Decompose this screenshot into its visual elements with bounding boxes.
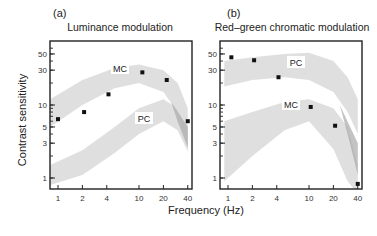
band-label-mc: MC — [284, 100, 298, 110]
bands-a — [50, 64, 188, 185]
data-point — [165, 78, 169, 82]
x-tick-label: 2 — [80, 194, 85, 203]
panel-chromatic: (b) Red–green chromatic modulation 13510… — [208, 7, 369, 203]
y-tick-label: 30 — [208, 66, 217, 75]
data-point — [276, 75, 280, 79]
panel-title-a: Luminance modulation — [67, 21, 173, 33]
panel-luminance: (a) Luminance modulation 135103050124102… — [38, 7, 193, 203]
x-tick-label: 2 — [250, 194, 255, 203]
data-point — [106, 92, 110, 96]
band-label-pc: PC — [290, 58, 303, 68]
y-tick-label: 1 — [43, 174, 48, 183]
x-axis-title: Frequency (Hz) — [168, 204, 244, 216]
band-mc — [224, 99, 357, 194]
data-point — [229, 55, 233, 59]
bands-b — [224, 53, 357, 195]
y-tick-label: 3 — [213, 139, 218, 148]
y-tick-label: 3 — [43, 139, 48, 148]
y-tick-label: 50 — [38, 50, 47, 59]
x-tick-label: 1 — [56, 194, 61, 203]
x-tick-label: 4 — [105, 194, 110, 203]
y-tick-label: 10 — [38, 101, 47, 110]
data-point — [186, 119, 190, 123]
y-tick-label: 5 — [213, 123, 218, 132]
band-label-mc: MC — [113, 64, 127, 74]
x-tick-label: 20 — [159, 194, 168, 203]
panel-title-b: Red–green chromatic modulation — [215, 21, 370, 33]
y-tick-label: 1 — [213, 174, 218, 183]
x-tick-label: 40 — [353, 194, 362, 203]
x-tick-label: 4 — [275, 194, 280, 203]
figure: Contrast sensitivity Frequency (Hz) (a) … — [0, 0, 377, 236]
y-tick-label: 30 — [38, 66, 47, 75]
x-tick-label: 20 — [329, 194, 338, 203]
data-point — [333, 124, 337, 128]
x-tick-label: 10 — [305, 194, 314, 203]
y-tick-label: 10 — [208, 101, 217, 110]
y-tick-label: 5 — [43, 123, 48, 132]
data-point — [252, 58, 256, 62]
data-point — [82, 110, 86, 114]
x-tick-label: 40 — [183, 194, 192, 203]
x-tick-label: 10 — [135, 194, 144, 203]
data-point — [140, 70, 144, 74]
data-point — [309, 105, 313, 109]
data-point — [356, 182, 360, 186]
x-tick-label: 1 — [226, 194, 231, 203]
y-axis-title: Contrast sensitivity — [16, 73, 28, 166]
band-label-pc: PC — [138, 114, 151, 124]
data-point — [56, 117, 60, 121]
y-tick-label: 50 — [208, 50, 217, 59]
panel-letter-a: (a) — [53, 7, 66, 19]
panel-letter-b: (b) — [227, 7, 240, 19]
